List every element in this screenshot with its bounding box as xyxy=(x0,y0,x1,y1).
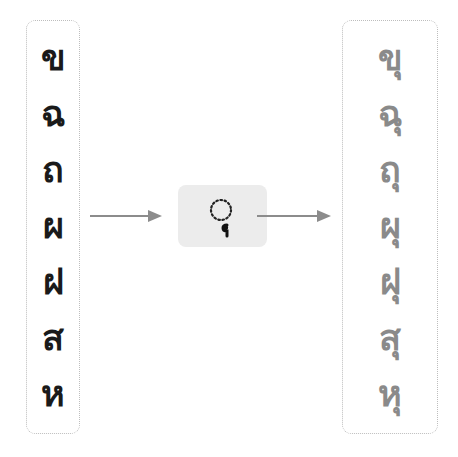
output-char: สุ xyxy=(379,313,401,365)
arrow-right-icon xyxy=(257,209,331,223)
input-char: ผ xyxy=(43,201,64,253)
input-char: ฉ xyxy=(41,89,66,141)
output-char: ผุ xyxy=(380,201,401,253)
output-characters-column: ขุ ฉุ ถุ ผุ ฝุ สุ หุ xyxy=(342,20,438,434)
output-char: ฝุ xyxy=(380,257,401,309)
output-char: ขุ xyxy=(378,33,403,85)
input-char: ส xyxy=(42,313,64,365)
input-characters-column: ข ฉ ถ ผ ฝ ส ห xyxy=(26,20,80,434)
output-char: ถุ xyxy=(379,145,401,197)
input-char: ห xyxy=(41,369,65,421)
arrow-right-icon xyxy=(90,209,162,223)
input-char: ข xyxy=(41,33,66,85)
output-char: หุ xyxy=(378,369,402,421)
dotted-circle-sara-u-icon xyxy=(203,194,243,238)
input-char: ฝ xyxy=(43,257,64,309)
combining-mark-operator xyxy=(178,185,267,247)
input-char: ถ xyxy=(42,145,64,197)
output-char: ฉุ xyxy=(378,89,403,141)
